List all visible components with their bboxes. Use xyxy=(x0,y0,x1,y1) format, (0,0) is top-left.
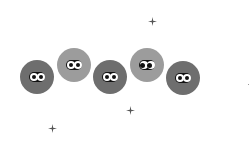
pupil-icon xyxy=(140,63,145,68)
eye-icon xyxy=(37,73,45,81)
creature-3[interactable] xyxy=(93,60,127,94)
creature-5[interactable] xyxy=(166,61,200,95)
pupil-icon xyxy=(185,76,189,80)
sparkle-icon xyxy=(48,124,57,133)
pupil-icon xyxy=(69,63,73,67)
creature-4[interactable] xyxy=(130,48,164,82)
eye-icon xyxy=(74,61,82,69)
sparkle-icon xyxy=(126,106,135,115)
pupil-icon xyxy=(178,76,182,80)
pupil-icon xyxy=(76,63,80,67)
pupil-icon xyxy=(39,75,43,79)
eyes-icon xyxy=(139,60,155,70)
creature-2[interactable] xyxy=(57,48,91,82)
eye-icon xyxy=(110,73,118,81)
pupil-icon xyxy=(105,75,109,79)
sparkle-icon xyxy=(148,17,157,26)
pupil-icon xyxy=(147,63,152,68)
creature-1[interactable] xyxy=(20,60,54,94)
eye-icon xyxy=(147,61,155,69)
pupil-icon xyxy=(32,75,36,79)
eyes-icon xyxy=(29,72,45,82)
eyes-icon xyxy=(66,60,82,70)
dot-icon xyxy=(248,84,249,85)
pupil-icon xyxy=(112,75,116,79)
eyes-icon xyxy=(175,73,191,83)
eye-icon xyxy=(183,74,191,82)
eyes-icon xyxy=(102,72,118,82)
